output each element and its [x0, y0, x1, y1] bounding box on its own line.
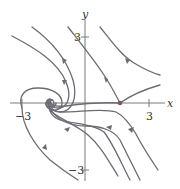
x-axis-label: x [167, 97, 174, 110]
spiral-loop-outer [21, 88, 62, 110]
saddle-point-dot [118, 101, 123, 106]
trajectory-lower-4 [51, 103, 158, 170]
phase-portrait: x y 3 −3 3 −3 [0, 0, 180, 189]
x-tick-label-3: 3 [146, 110, 153, 123]
trajectory-upper-right [100, 27, 160, 75]
unstable-separatrix-right [120, 85, 160, 103]
arrow-icon [64, 127, 70, 132]
arrow-icon [42, 144, 47, 150]
y-axis-label: y [81, 8, 89, 21]
